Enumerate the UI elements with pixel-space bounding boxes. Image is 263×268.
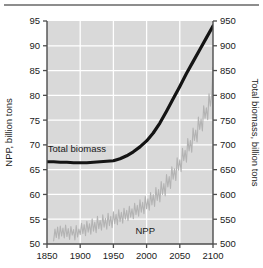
- tick-label-left: 60: [29, 189, 40, 200]
- tick-label-right: 850: [220, 65, 236, 76]
- tick-label-right: 650: [220, 164, 236, 175]
- tick-label-right: 600: [220, 189, 236, 200]
- y2-axis-title: Total biomass, billion tons: [250, 78, 261, 186]
- tick-label-right: 950: [220, 15, 236, 26]
- annotation-total-biomass: Total biomass: [48, 143, 106, 154]
- tick-label-left: 55: [29, 214, 40, 225]
- chart-figure: 5055606570758085909550055060065070075080…: [0, 0, 263, 268]
- tick-label-left: 70: [29, 139, 40, 150]
- npp-biomass-chart: 5055606570758085909550055060065070075080…: [0, 0, 263, 268]
- tick-label-bottom: 1900: [70, 250, 91, 261]
- tick-label-left: 95: [29, 15, 40, 26]
- tick-label-right: 500: [220, 238, 236, 249]
- tick-label-bottom: 2000: [136, 250, 157, 261]
- annotation-npp: NPP: [135, 225, 155, 236]
- tick-label-left: 50: [29, 238, 40, 249]
- tick-label-left: 85: [29, 65, 40, 76]
- tick-label-left: 75: [29, 115, 40, 126]
- tick-label-bottom: 1850: [36, 250, 57, 261]
- tick-label-bottom: 2100: [202, 250, 223, 261]
- tick-label-right: 700: [220, 139, 236, 150]
- tick-label-right: 800: [220, 90, 236, 101]
- y-axis-title: NPP, billion tons: [3, 98, 14, 167]
- tick-label-right: 750: [220, 115, 236, 126]
- tick-label-left: 90: [29, 40, 40, 51]
- tick-label-right: 900: [220, 40, 236, 51]
- tick-label-left: 80: [29, 90, 40, 101]
- tick-label-right: 550: [220, 214, 236, 225]
- tick-label-bottom: 2050: [169, 250, 190, 261]
- tick-label-left: 65: [29, 164, 40, 175]
- tick-label-bottom: 1950: [103, 250, 124, 261]
